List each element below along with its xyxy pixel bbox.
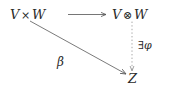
node-v-times-w-right: W: [32, 7, 46, 22]
times-operator-icon: ×: [20, 9, 32, 22]
phi-symbol: φ: [144, 39, 152, 52]
node-v-tensor-w-left: V: [112, 7, 122, 22]
node-v-times-w-left: V: [10, 7, 20, 22]
node-v-times-w: V×W: [10, 8, 46, 21]
commutative-diagram: V×W V⊗W Z β ∃φ: [0, 0, 171, 92]
tensor-operator-icon: ⊗: [122, 9, 134, 22]
node-v-tensor-w: V⊗W: [112, 8, 148, 21]
node-v-tensor-w-right: W: [134, 7, 148, 22]
node-z: Z: [128, 72, 137, 85]
edge-label-exists-phi: ∃φ: [138, 40, 152, 51]
edge-label-beta: β: [57, 56, 64, 68]
edge-diagonal-bilinear-map: [30, 21, 126, 74]
